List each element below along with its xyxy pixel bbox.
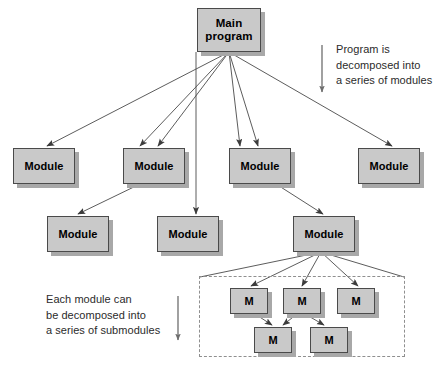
dashed-group-fan-lines bbox=[200, 252, 404, 277]
node-module-row1-3[interactable]: Module bbox=[358, 148, 420, 184]
node-submodule-row1-1[interactable]: M bbox=[283, 288, 321, 314]
node-submodule-row2-0[interactable]: M bbox=[254, 327, 292, 353]
connector-line bbox=[78, 184, 140, 214]
node-module-row2-2[interactable]: Module bbox=[293, 216, 355, 252]
program-decomposition-diagram: Main program ModuleModuleModuleModule Mo… bbox=[0, 0, 434, 380]
node-submodule-row2-1[interactable]: M bbox=[310, 327, 348, 353]
node-module-row2-0[interactable]: Module bbox=[47, 216, 109, 252]
connector-line bbox=[158, 52, 229, 146]
node-submodule-row1-2[interactable]: M bbox=[337, 288, 375, 314]
connector-line bbox=[47, 52, 229, 146]
note-top: Program is decomposed into a series of m… bbox=[336, 42, 432, 89]
node-submodule-row1-0[interactable]: M bbox=[230, 288, 268, 314]
connector-line bbox=[321, 252, 404, 277]
node-module-row1-2[interactable]: Module bbox=[229, 148, 291, 184]
connector-line bbox=[200, 252, 321, 277]
node-module-row1-1[interactable]: Module bbox=[123, 148, 185, 184]
connector-line bbox=[229, 52, 240, 146]
node-module-row2-1[interactable]: Module bbox=[157, 216, 219, 252]
node-module-row1-0[interactable]: Module bbox=[13, 148, 75, 184]
connector-line bbox=[276, 184, 323, 214]
note-bottom: Each module can be decomposed into a ser… bbox=[46, 292, 160, 339]
node-main-program[interactable]: Main program bbox=[197, 8, 261, 52]
connector-line bbox=[140, 52, 229, 146]
